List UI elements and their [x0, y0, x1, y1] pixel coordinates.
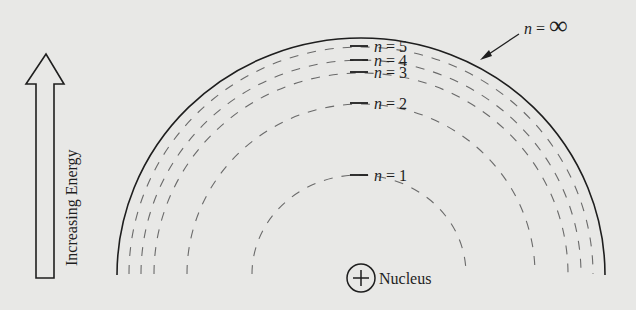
level-labels: n = 5 n = 4 n = 3 n = 2 n = 1: [350, 38, 407, 184]
energy-axis-label: Increasing Energy: [63, 149, 81, 266]
nucleus: Nucleus: [347, 264, 431, 292]
orbit-n5: [129, 47, 593, 274]
label-n2: n = 2: [374, 95, 407, 112]
energy-level-diagram: Increasing Energy n = 5 n = 4 n = 3 n = …: [0, 0, 636, 310]
orbit-n2: [187, 104, 535, 274]
nucleus-label: Nucleus: [379, 270, 431, 287]
label-n3: n = 3: [374, 64, 407, 81]
orbit-n4: [141, 60, 581, 274]
label-n1: n = 1: [374, 167, 407, 184]
energy-arrow-icon: [26, 54, 64, 278]
label-n-infinity: n = ∞: [524, 11, 568, 40]
energy-level-arcs: [129, 47, 593, 274]
infinity-pointer-arrow-icon: [480, 34, 519, 60]
orbit-n1: [252, 175, 466, 274]
